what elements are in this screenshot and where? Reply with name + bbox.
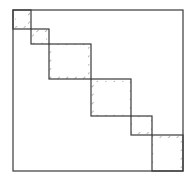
block-diagonal-diagram xyxy=(0,0,196,179)
block-3 xyxy=(49,44,91,79)
block-1 xyxy=(13,10,31,29)
diagonal-blocks xyxy=(13,10,183,171)
block-6 xyxy=(152,135,183,171)
block-2 xyxy=(31,29,49,44)
block-5 xyxy=(131,116,152,135)
block-4 xyxy=(91,79,131,116)
